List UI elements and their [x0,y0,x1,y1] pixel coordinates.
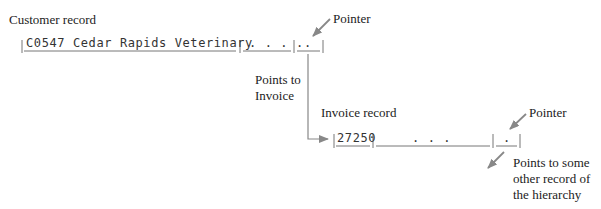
invoice-record-title: Invoice record [321,105,396,121]
customer-id-name-field: C0547 Cedar Rapids Veterinary [26,36,253,50]
invoice-pointer-label: Pointer [529,105,567,121]
pointer-arrow-invoice [510,114,526,129]
invoice-data-field: . . . [412,131,451,145]
customer-pointer-label: Pointer [333,11,371,27]
other-link-label-line1: Points to some [513,155,590,171]
connector-line [308,54,328,139]
other-link-label-line2: other record of [513,171,590,187]
pointer-arrow-customer [313,19,330,36]
diagram-lines [0,0,601,209]
customer-record-title: Customer record [9,12,96,28]
link-label-line1: Points to [255,72,301,88]
invoice-pointer-field: . [503,131,511,145]
other-link-label-line3: the hierarchy [513,187,581,203]
customer-data-field: . . . . [249,36,304,50]
customer-pointer-field: . [304,36,312,50]
link-label-line2: Invoice [255,88,294,104]
invoice-id-field: 27250 [337,131,376,145]
outgoing-arrow [488,152,504,168]
